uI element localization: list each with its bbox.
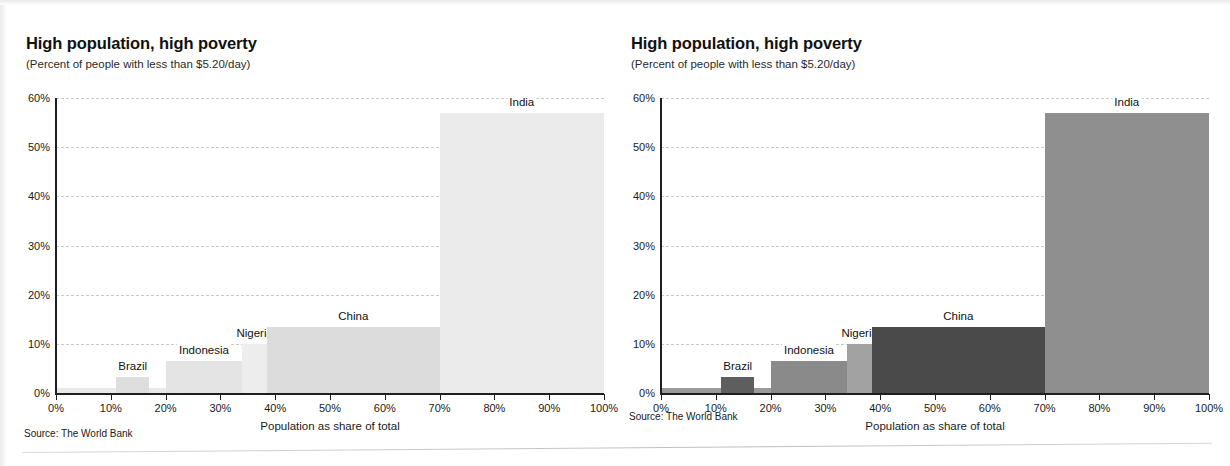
y-axis-tick-label: 30% [28,240,50,252]
page-title: High population, high poverty [26,34,257,53]
x-axis-tick-label: 60% [979,402,1001,414]
bar-label-india: India [507,96,536,108]
x-axis-tick-mark [275,394,276,400]
y-axis-tick-label: 10% [633,338,655,350]
y-axis-line [55,98,57,393]
y-axis-tick-label: 10% [28,338,50,350]
x-axis-tick-mark [604,394,605,400]
x-axis-tick-mark [166,394,167,400]
x-axis-tick-mark [880,394,881,400]
x-axis-tick-mark [1209,394,1210,400]
bar-nigeria [847,344,872,393]
x-axis-tick-mark [549,394,550,400]
y-axis-tick-label: 40% [28,190,50,202]
bar-label-indonesia: Indonesia [782,344,836,356]
x-axis-tick-mark [440,394,441,400]
y-axis-tick-label: 30% [633,240,655,252]
x-axis-tick-mark [1154,394,1155,400]
bar-china [267,327,440,393]
x-axis-tick-label: 50% [319,402,341,414]
x-axis-tick-label: 80% [483,402,505,414]
x-axis-tick-label: 100% [590,402,618,414]
x-axis-tick-label: 70% [429,402,451,414]
chart-panel-right: High population, high poverty (Percent o… [615,0,1230,466]
x-axis-tick-mark [494,394,495,400]
x-axis-tick-label: 90% [538,402,560,414]
y-axis-tick-label: 0% [34,387,50,399]
x-axis-tick-label: 100% [1195,402,1223,414]
bar-china [872,327,1045,393]
x-axis-tick-mark [935,394,936,400]
bar-brazil [721,377,754,393]
y-axis-tick-label: 60% [633,92,655,104]
x-axis-tick-mark [1099,394,1100,400]
x-axis-tick-label: 20% [155,402,177,414]
source-note: Source: The World Bank [629,411,738,422]
plot-area-right: 0%10%20%30%40%50%60%BrazilIndonesiaNiger… [661,98,1209,393]
bar-label-china: China [941,310,975,322]
bar-label-brazil: Brazil [116,360,149,372]
page-title: High population, high poverty [631,34,862,53]
x-axis-tick-mark [771,394,772,400]
bar-nigeria [242,344,267,393]
x-axis-tick-mark [990,394,991,400]
x-axis-tick-mark [220,394,221,400]
x-axis-tick-mark [825,394,826,400]
x-axis-tick-label: 0% [48,402,64,414]
y-axis-line [660,98,662,393]
y-axis-tick-label: 50% [633,141,655,153]
y-axis-tick-label: 40% [633,190,655,202]
bar-indonesia [771,361,848,393]
x-axis-tick-label: 80% [1088,402,1110,414]
x-axis-tick-label: 40% [264,402,286,414]
x-axis-tick-label: 60% [374,402,396,414]
x-axis-tick-mark [330,394,331,400]
bar-india [1045,113,1209,393]
chart-subtitle: (Percent of people with less than $5.20/… [631,58,855,70]
y-axis-tick-label: 20% [28,289,50,301]
x-axis-tick-mark [56,394,57,400]
x-axis-title: Population as share of total [865,420,1004,432]
x-axis-tick-label: 30% [209,402,231,414]
x-axis-tick-label: 20% [760,402,782,414]
x-axis-title: Population as share of total [260,420,399,432]
x-axis-tick-mark [716,394,717,400]
source-note: Source: The World Bank [24,428,133,439]
bar-label-china: China [336,310,370,322]
y-axis-tick-label: 50% [28,141,50,153]
y-axis-tick-label: 20% [633,289,655,301]
x-axis-tick-label: 40% [869,402,891,414]
bar-label-brazil: Brazil [721,360,754,372]
x-axis-tick-label: 50% [924,402,946,414]
bar-indonesia [166,361,243,393]
chart-panel-left: High population, high poverty (Percent o… [0,0,615,466]
x-axis-tick-mark [1045,394,1046,400]
bar-label-india: India [1112,96,1141,108]
scanned-page: High population, high poverty (Percent o… [0,0,1230,466]
y-axis-tick-label: 60% [28,92,50,104]
x-axis-tick-mark [661,394,662,400]
bar-brazil [116,377,149,393]
bar-india [440,113,604,393]
x-axis-tick-label: 70% [1034,402,1056,414]
chart-subtitle: (Percent of people with less than $5.20/… [26,58,250,70]
x-axis-tick-label: 90% [1143,402,1165,414]
y-axis-tick-label: 0% [639,387,655,399]
x-axis-tick-mark [385,394,386,400]
x-axis-tick-mark [111,394,112,400]
bar-label-indonesia: Indonesia [177,344,231,356]
x-axis-tick-label: 10% [100,402,122,414]
plot-area-left: 0%10%20%30%40%50%60%BrazilIndonesiaNiger… [56,98,604,393]
x-axis-tick-label: 30% [814,402,836,414]
